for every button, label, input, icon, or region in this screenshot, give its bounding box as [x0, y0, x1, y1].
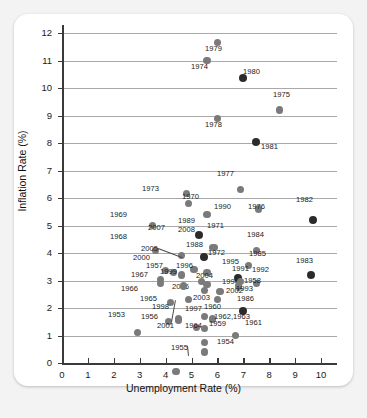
- data-point-label: 1960: [204, 303, 221, 311]
- x-tick: [217, 358, 218, 364]
- data-point-label: 1979: [205, 45, 222, 53]
- x-tick-label: 7: [236, 370, 250, 380]
- data-point-label: 1964: [185, 322, 202, 330]
- x-tick: [321, 358, 322, 364]
- data-point-label: 1955: [171, 344, 188, 352]
- x-tick-label: 6: [210, 370, 224, 380]
- x-tick-label: 10: [314, 370, 328, 380]
- data-point-label: 1982: [296, 196, 313, 204]
- gridline: [62, 33, 337, 34]
- data-point-label: 1984: [247, 231, 264, 239]
- data-point-label: 1966: [121, 285, 138, 293]
- data-point-label: 1959: [209, 320, 226, 328]
- data-point-label: 1983: [296, 257, 313, 265]
- y-tick: [58, 116, 63, 117]
- data-point-label: 1997: [185, 305, 202, 313]
- y-tick-label: 6: [32, 193, 52, 203]
- data-point-label: 1954: [217, 338, 234, 346]
- data-point-label: 2001: [157, 322, 174, 330]
- data-point-label: 2003: [193, 294, 210, 302]
- data-point: [175, 317, 182, 324]
- x-tick-label: 1: [81, 370, 95, 380]
- y-tick: [58, 363, 63, 364]
- x-tick: [269, 358, 270, 364]
- data-point-label: 1989: [178, 217, 195, 225]
- data-point: [237, 186, 244, 193]
- x-tick-label: 2: [107, 370, 121, 380]
- data-point-label: 1967: [131, 271, 148, 279]
- y-tick-label: 8: [32, 138, 52, 148]
- y-tick: [58, 336, 63, 337]
- chart-page: Inflation Rate (%) Unemployment Rate (%)…: [0, 0, 367, 418]
- x-tick: [192, 358, 193, 364]
- data-point: [195, 231, 203, 239]
- x-tick: [243, 358, 244, 364]
- y-tick-label: 2: [32, 303, 52, 313]
- data-point: [185, 296, 192, 303]
- y-tick-label: 7: [32, 166, 52, 176]
- y-tick-label: 0: [32, 358, 52, 368]
- y-tick-label: 4: [32, 248, 52, 258]
- gridline: [62, 143, 337, 144]
- y-tick: [58, 33, 63, 34]
- y-tick-label: 9: [32, 111, 52, 121]
- data-point-label: 1972: [208, 249, 225, 257]
- data-point-label: 1971: [207, 222, 224, 230]
- y-tick: [58, 61, 63, 62]
- x-tick: [295, 358, 296, 364]
- data-point: [276, 106, 283, 113]
- y-tick-label: 5: [32, 221, 52, 231]
- data-point-label: 1991: [232, 265, 249, 273]
- data-point-label: 1953: [108, 311, 125, 319]
- data-point-label: 1961: [245, 319, 262, 327]
- data-point: [178, 271, 185, 278]
- data-point-label: 1985: [249, 250, 266, 258]
- data-point-label: 1990: [214, 203, 231, 211]
- gridline: [62, 88, 337, 89]
- x-tick: [88, 358, 89, 364]
- data-point-label: 1975: [273, 91, 290, 99]
- x-tick-label: 8: [262, 370, 276, 380]
- data-point: [216, 288, 223, 295]
- y-tick-label: 11: [32, 56, 52, 66]
- y-tick: [58, 171, 63, 172]
- data-point-label: 1980: [243, 68, 260, 76]
- data-point-label: 1986: [237, 295, 254, 303]
- x-tick-label: 3: [133, 370, 147, 380]
- x-tick-label: 0: [55, 370, 69, 380]
- data-point-label: 2007: [148, 224, 165, 232]
- data-point-label: 1974: [191, 63, 208, 71]
- y-tick: [58, 281, 63, 282]
- y-axis: [62, 25, 64, 363]
- data-point-label: 1999: [160, 268, 177, 276]
- y-tick: [58, 88, 63, 89]
- data-point-label: 2005: [141, 245, 158, 253]
- gridline: [62, 336, 337, 337]
- data-point: [157, 280, 164, 287]
- data-point-label: 1968: [110, 233, 127, 241]
- data-point-label: 1998: [152, 303, 169, 311]
- x-tick: [166, 358, 167, 364]
- data-point: [172, 368, 179, 375]
- x-tick: [140, 358, 141, 364]
- gridline: [62, 116, 337, 117]
- data-point: [201, 325, 208, 332]
- data-point-label: 1996: [176, 262, 193, 270]
- y-tick-label: 12: [32, 28, 52, 38]
- gridline: [62, 253, 337, 254]
- data-point: [134, 329, 141, 336]
- scatter-plot: Inflation Rate (%) Unemployment Rate (%)…: [0, 0, 367, 418]
- y-tick: [58, 308, 63, 309]
- x-tick-label: 9: [288, 370, 302, 380]
- data-point: [201, 313, 208, 320]
- data-point: [201, 348, 208, 355]
- data-point-label: 1977: [217, 170, 234, 178]
- gridline: [62, 226, 337, 227]
- data-point-label: 1988: [186, 241, 203, 249]
- data-point: [180, 282, 187, 289]
- y-tick-label: 1: [32, 331, 52, 341]
- data-point: [307, 271, 315, 279]
- data-point-label: 1969: [110, 211, 127, 219]
- data-point-label: 1970: [182, 193, 199, 201]
- y-tick: [58, 143, 63, 144]
